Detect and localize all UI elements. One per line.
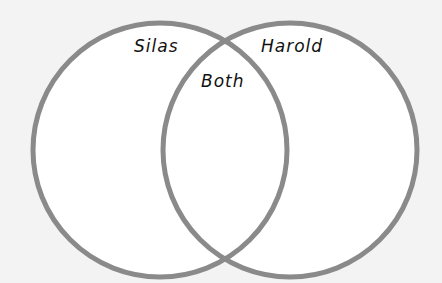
label-harold: Harold (261, 36, 323, 56)
label-silas: Silas (134, 36, 179, 56)
venn-diagram: Silas Harold Both (0, 0, 442, 283)
venn-circles (0, 0, 442, 283)
label-both: Both (201, 71, 245, 91)
